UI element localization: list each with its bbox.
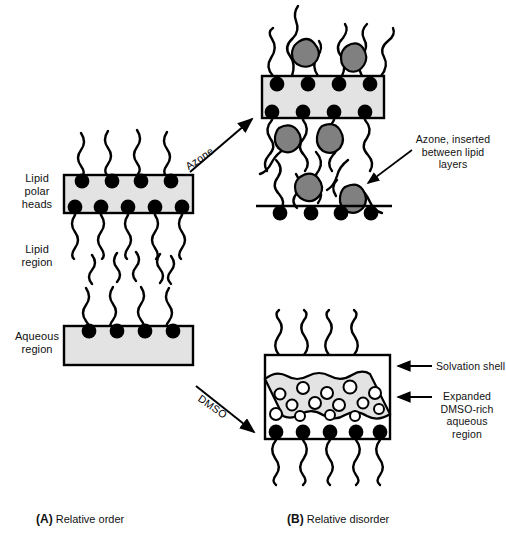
annotation-expanded-dmso-region: Expanded DMSO-rich aqueous region <box>432 390 502 440</box>
annotation-azone-inserted: Azone, inserted between lipid layers <box>406 133 500 171</box>
caption-b: (B) Relative disorder <box>287 512 389 526</box>
annotation-solvation-shell: Solvation shell <box>436 360 506 373</box>
label-lipid-region: Lipid region <box>8 243 66 269</box>
caption-b-text: Relative disorder <box>304 513 390 525</box>
label-aqueous-region: Aqueous region <box>4 330 70 356</box>
caption-a-text: Relative order <box>53 513 125 525</box>
label-lipid-polar-heads: Lipid polar heads <box>8 172 66 211</box>
caption-a: (A) Relative order <box>36 512 124 526</box>
caption-b-tag: (B) <box>287 512 304 526</box>
caption-a-tag: (A) <box>36 512 53 526</box>
